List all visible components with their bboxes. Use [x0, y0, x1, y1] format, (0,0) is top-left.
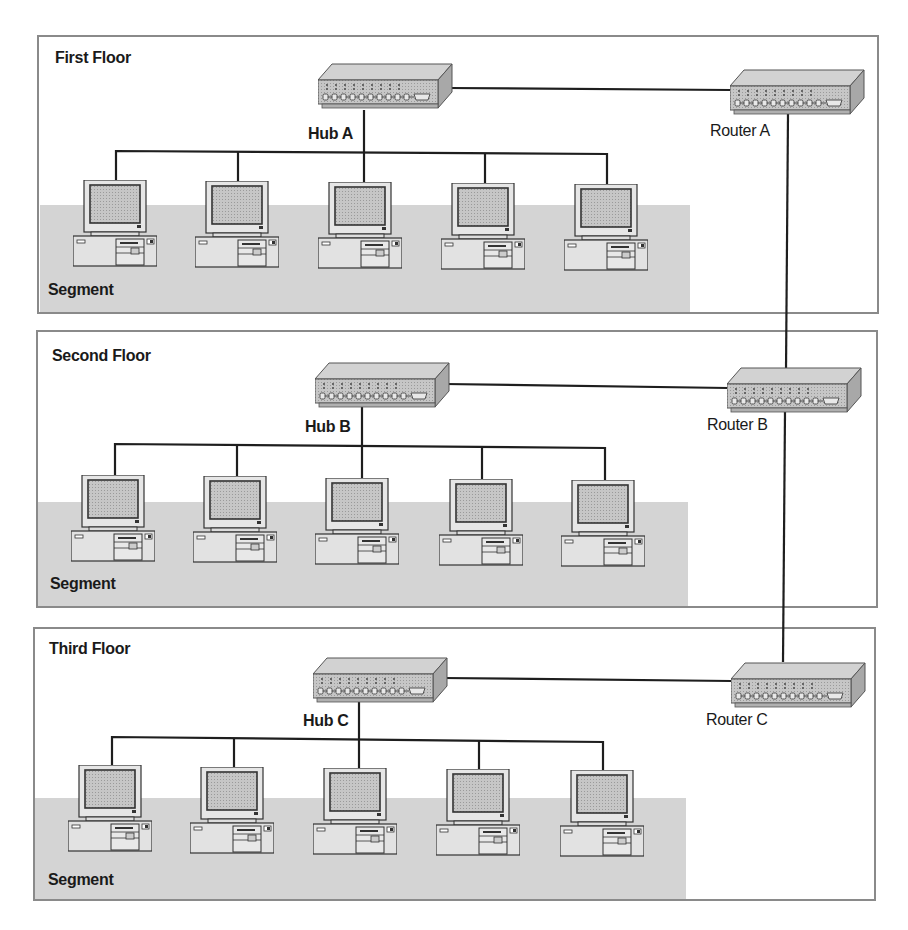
floor-1-computer-2	[195, 181, 279, 271]
floor-3-computer-3	[313, 768, 397, 858]
floor-2-segment-label: Segment	[50, 575, 115, 593]
hub-b	[315, 361, 451, 409]
computer-icon	[318, 182, 402, 272]
router-device-icon	[731, 661, 867, 709]
floor-2-computer-5	[561, 480, 645, 570]
hub-device-icon	[318, 62, 454, 110]
floor-3-title: Third Floor	[49, 640, 130, 658]
computer-icon	[190, 767, 274, 857]
computer-icon	[73, 180, 157, 270]
computer-icon	[561, 480, 645, 570]
computer-icon	[315, 478, 399, 568]
router-device-icon	[730, 68, 866, 116]
hub-a-label: Hub A	[308, 125, 353, 143]
floor-1-segment-label: Segment	[48, 281, 113, 299]
computer-icon	[441, 183, 525, 273]
floor-1-computer-4	[441, 183, 525, 273]
floor-3-computer-2	[190, 767, 274, 857]
router-a-label: Router A	[710, 122, 770, 140]
floor-1-computer-5	[564, 184, 648, 274]
floor-2-title: Second Floor	[52, 347, 151, 365]
computer-icon	[313, 768, 397, 858]
router-a	[730, 68, 866, 116]
floor-3-computer-4	[436, 769, 520, 859]
floor-3-computer-5	[560, 770, 644, 860]
computer-icon	[564, 184, 648, 274]
computer-icon	[439, 479, 523, 569]
floor-1-title: First Floor	[55, 49, 131, 67]
floor-2-computer-2	[193, 476, 277, 566]
hub-c	[313, 656, 449, 704]
computer-icon	[68, 765, 152, 855]
floor-2-computer-1	[71, 475, 155, 565]
computer-icon	[71, 475, 155, 565]
floor-1-computer-3	[318, 182, 402, 272]
router-device-icon	[727, 366, 863, 414]
floor-3-computer-1	[68, 765, 152, 855]
hub-b-label: Hub B	[305, 418, 351, 436]
floor-2-computer-4	[439, 479, 523, 569]
hub-device-icon	[315, 361, 451, 409]
computer-icon	[436, 769, 520, 859]
hub-a	[318, 62, 454, 110]
hub-device-icon	[313, 656, 449, 704]
floor-2-computer-3	[315, 478, 399, 568]
computer-icon	[195, 181, 279, 271]
hub-c-label: Hub C	[303, 712, 349, 730]
computer-icon	[193, 476, 277, 566]
floor-1-computer-1	[73, 180, 157, 270]
router-c	[731, 661, 867, 709]
router-c-label: Router C	[706, 711, 768, 729]
computer-icon	[560, 770, 644, 860]
floor-3-segment-label: Segment	[48, 871, 113, 889]
router-b-label: Router B	[707, 416, 768, 434]
router-b	[727, 366, 863, 414]
